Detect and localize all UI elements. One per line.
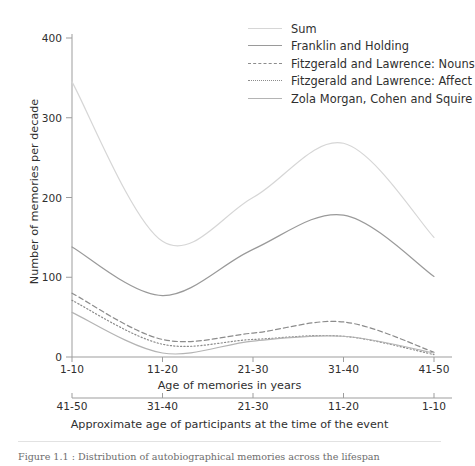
legend-item-zola[interactable]: Zola Morgan, Cohen and Squire [248, 90, 453, 108]
legend-swatch-sum-icon [248, 24, 282, 34]
x-tick-label-secondary: 21-30 [238, 400, 269, 412]
caption-divider [18, 441, 441, 442]
y-tick-label: 0 [30, 351, 62, 363]
legend-item-sum[interactable]: Sum [248, 20, 453, 38]
x-axis-ticks-secondary [72, 393, 434, 398]
x-tick-label-primary: 11-20 [147, 363, 178, 375]
x-tick-label-secondary: 1-10 [422, 400, 446, 412]
series-line-fitzgerald-and-lawrence-affect [72, 300, 434, 354]
y-axis-title: Number of memories per decade [28, 82, 41, 302]
y-tick-label: 400 [30, 32, 62, 44]
legend-swatch-zola-icon [248, 94, 282, 104]
data-series-group [72, 82, 434, 355]
x-tick-label-secondary: 41-50 [57, 400, 88, 412]
x-tick-label-secondary: 31-40 [147, 400, 178, 412]
chart-legend: SumFranklin and HoldingFitzgerald and La… [248, 20, 453, 108]
legend-swatch-franklin-icon [248, 41, 282, 51]
legend-label-zola: Zola Morgan, Cohen and Squire [291, 92, 472, 106]
x-axis-title-secondary: Approximate age of participants at the t… [0, 418, 459, 431]
figure-caption: Figure 1.1 : Distribution of autobiograp… [18, 450, 448, 464]
series-line-franklin-and-holding [72, 215, 434, 296]
x-axis-title-primary: Age of memories in years [0, 379, 459, 392]
legend-label-affect: Fitzgerald and Lawrence: Affect [291, 74, 472, 88]
legend-swatch-nouns-icon [248, 59, 282, 69]
x-tick-label-secondary: 11-20 [328, 400, 359, 412]
legend-item-franklin[interactable]: Franklin and Holding [248, 38, 453, 56]
y-axis-ticks [66, 38, 72, 357]
legend-swatch-affect-icon [248, 76, 282, 86]
legend-label-nouns: Fitzgerald and Lawrence: Nouns [291, 57, 475, 71]
legend-item-nouns[interactable]: Fitzgerald and Lawrence: Nouns [248, 55, 453, 73]
x-tick-label-primary: 31-40 [328, 363, 359, 375]
series-line-fitzgerald-and-lawrence-nouns [72, 293, 434, 352]
legend-label-sum: Sum [291, 22, 317, 36]
legend-label-franklin: Franklin and Holding [291, 39, 409, 53]
x-tick-label-primary: 21-30 [238, 363, 269, 375]
x-tick-label-primary: 41-50 [419, 363, 450, 375]
legend-item-affect[interactable]: Fitzgerald and Lawrence: Affect [248, 73, 453, 91]
x-axis-ticks-primary [72, 357, 434, 362]
x-tick-label-primary: 1-10 [60, 363, 84, 375]
